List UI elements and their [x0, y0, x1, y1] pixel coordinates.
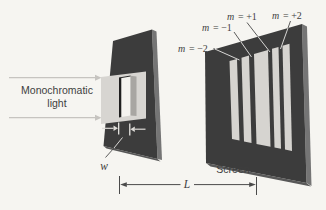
- order-symbol: m: [272, 10, 279, 21]
- screen-label: Screen: [216, 163, 249, 175]
- incident-light: Monochromatic light: [9, 75, 102, 121]
- order-value: = +2: [283, 10, 302, 21]
- light-ray-bottom-arrowhead-icon: [95, 115, 102, 121]
- width-leader-outer: [106, 148, 115, 158]
- source-label-line2: light: [47, 97, 66, 109]
- slit-side-wall: [131, 76, 137, 116]
- central-bright-fringe: [254, 50, 271, 147]
- leader-m-plus-1-outer: [247, 23, 258, 37]
- order-value: = −1: [213, 22, 232, 33]
- leader-m-minus-2-outer: [214, 49, 216, 50]
- leader-m-minus-1-outer: [234, 32, 241, 42]
- light-ray-top-arrowhead-icon: [95, 75, 102, 81]
- order-value: = −2: [189, 43, 208, 54]
- leader-m-plus-2-outer: [288, 21, 291, 28]
- source-label-line1: Monochromatic: [21, 84, 93, 96]
- order-value: = +1: [238, 11, 257, 22]
- distance-arrow-right-head-icon: [249, 182, 256, 187]
- distance-arrow-left-head-icon: [120, 182, 127, 187]
- slit-plate: [101, 30, 162, 162]
- order-symbol: m: [178, 43, 185, 54]
- order-symbol: m: [227, 11, 234, 22]
- order-symbol: m: [202, 22, 209, 33]
- slit-width-symbol: w: [100, 160, 108, 172]
- slit-opening: [122, 76, 131, 117]
- distance-annotation: L: [120, 176, 257, 195]
- distance-symbol: L: [183, 178, 190, 190]
- slit-inner-shadow: [119, 78, 122, 118]
- single-slit-diffraction-figure: Monochromatic light w: [0, 0, 326, 210]
